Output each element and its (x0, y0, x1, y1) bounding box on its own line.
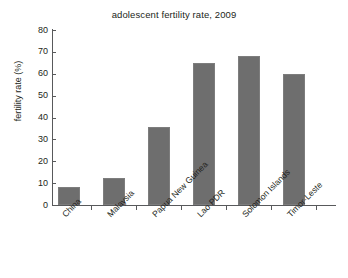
y-tick-label: 40 (18, 113, 48, 122)
bar (238, 56, 260, 205)
y-tick-mark (52, 183, 56, 184)
y-axis-tick-labels: 01020304050607080 (16, 0, 48, 278)
bar (283, 74, 305, 205)
bar (193, 63, 215, 205)
x-tick-mark (271, 206, 272, 210)
y-tick-mark (52, 205, 56, 206)
chart-title: adolescent fertility rate, 2009 (0, 9, 348, 20)
y-tick-mark (52, 161, 56, 162)
y-tick-mark (52, 139, 56, 140)
bar-chart: adolescent fertility rate, 2009 fertilit… (0, 0, 348, 278)
x-tick-mark (91, 206, 92, 210)
x-tick-mark (181, 206, 182, 210)
y-tick-mark (52, 96, 56, 97)
y-tick-mark (52, 30, 56, 31)
y-tick-label: 0 (18, 201, 48, 210)
y-tick-label: 30 (18, 135, 48, 144)
x-tick-mark (316, 206, 317, 210)
y-tick-label: 20 (18, 157, 48, 166)
x-tick-mark (226, 206, 227, 210)
y-tick-label: 50 (18, 91, 48, 100)
y-tick-label: 10 (18, 179, 48, 188)
x-tick-mark (136, 206, 137, 210)
y-tick-mark (52, 118, 56, 119)
y-tick-label: 70 (18, 47, 48, 56)
y-tick-mark (52, 52, 56, 53)
y-tick-mark (52, 74, 56, 75)
y-tick-label: 80 (18, 26, 48, 35)
y-tick-label: 60 (18, 69, 48, 78)
